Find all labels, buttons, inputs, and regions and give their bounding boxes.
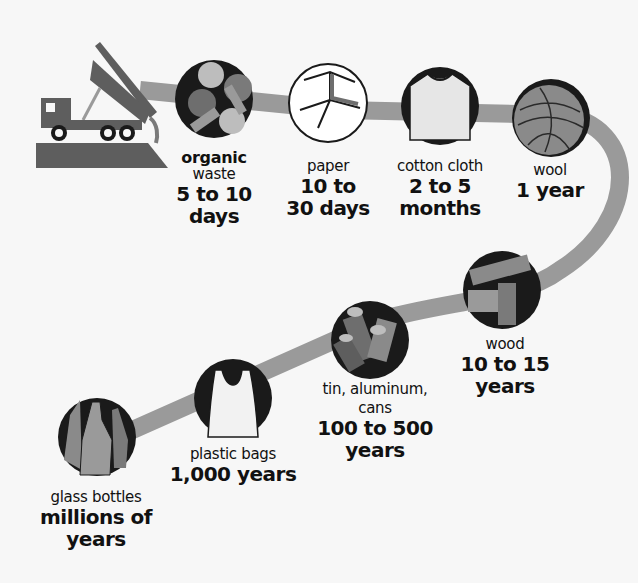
item-time-line2: months: [385, 197, 495, 219]
item-time: 100 to 500: [312, 417, 438, 439]
item-time: 1,000 years: [168, 463, 298, 485]
item-name-line2: waste: [164, 167, 264, 183]
plastic-bags-label: plastic bags 1,000 years: [168, 447, 298, 485]
vegetables-icon: [175, 60, 253, 138]
item-name: wool: [505, 163, 595, 179]
item-time-line2: years: [455, 375, 555, 397]
item-name: tin, aluminum,: [312, 382, 438, 398]
item-time-line2: years: [36, 528, 156, 550]
tshirt-icon: [401, 67, 479, 145]
item-time: 10 to 15: [455, 353, 555, 375]
glass-bottles-icon: [58, 398, 136, 476]
item-name: paper: [280, 159, 376, 175]
item-name: glass bottles: [36, 490, 156, 506]
item-name-line2: cans: [312, 401, 438, 417]
glass-bottles-label: glass bottles millions of years: [36, 490, 156, 550]
organic-waste-label: organic waste 5 to 10 days: [164, 150, 264, 227]
plastic-bag-icon: [194, 359, 272, 437]
dump-truck-icon: [36, 42, 168, 168]
paper-label: paper 10 to 30 days: [280, 159, 376, 219]
item-time-line2: days: [164, 205, 264, 227]
item-name: cotton cloth: [385, 159, 495, 175]
item-time: 1 year: [505, 179, 595, 201]
item-time: 2 to 5: [385, 175, 495, 197]
item-time-line2: 30 days: [280, 197, 376, 219]
paper-icon: [289, 64, 367, 142]
wool-label: wool 1 year: [505, 163, 595, 201]
wood-planks-icon: [463, 251, 541, 329]
cotton-cloth-label: cotton cloth 2 to 5 months: [385, 159, 495, 219]
wood-label: wood 10 to 15 years: [455, 337, 555, 397]
item-time: 10 to: [280, 175, 376, 197]
cans-icon: [331, 301, 409, 379]
item-name: wood: [455, 337, 555, 353]
yarn-ball-icon: [512, 79, 590, 157]
item-time: millions of: [36, 506, 156, 528]
cans-label: tin, aluminum, cans 100 to 500 years: [312, 382, 438, 461]
item-time: 5 to 10: [164, 183, 264, 205]
item-name: plastic bags: [168, 447, 298, 463]
item-time-line2: years: [312, 439, 438, 461]
